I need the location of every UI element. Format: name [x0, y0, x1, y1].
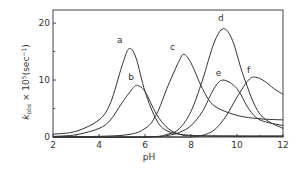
y-tick-label: 20	[39, 18, 51, 28]
x-tick-label: 10	[231, 140, 243, 150]
curve-d	[53, 29, 283, 137]
curve-label-c: c	[170, 42, 175, 52]
curve-b	[53, 85, 283, 136]
curve-label-d: d	[218, 13, 224, 23]
x-tick-label: 4	[96, 140, 102, 150]
x-tick-label: 2	[50, 140, 56, 150]
chart-svg: 2468101201020 abcdef pH kobs × 105(sec−1…	[0, 0, 297, 170]
x-tick-label: 6	[142, 140, 148, 150]
x-axis-label: pH	[143, 152, 155, 162]
y-axis-label: kobs × 105(sec−1)	[20, 44, 32, 119]
curve-label-f: f	[247, 65, 251, 75]
x-tick-label: 12	[277, 140, 288, 150]
y-tick-label: 0	[44, 132, 50, 142]
svg-text:kobs × 105(sec−1): kobs × 105(sec−1)	[20, 44, 32, 119]
x-tick-label: 8	[188, 140, 194, 150]
curve-labels: abcdef	[117, 13, 251, 82]
curve-label-a: a	[117, 35, 123, 45]
curve-label-e: e	[216, 68, 222, 78]
curves	[53, 29, 283, 137]
curve-a	[53, 48, 283, 136]
curve-label-b: b	[128, 72, 134, 82]
y-tick-label: 10	[39, 75, 51, 85]
